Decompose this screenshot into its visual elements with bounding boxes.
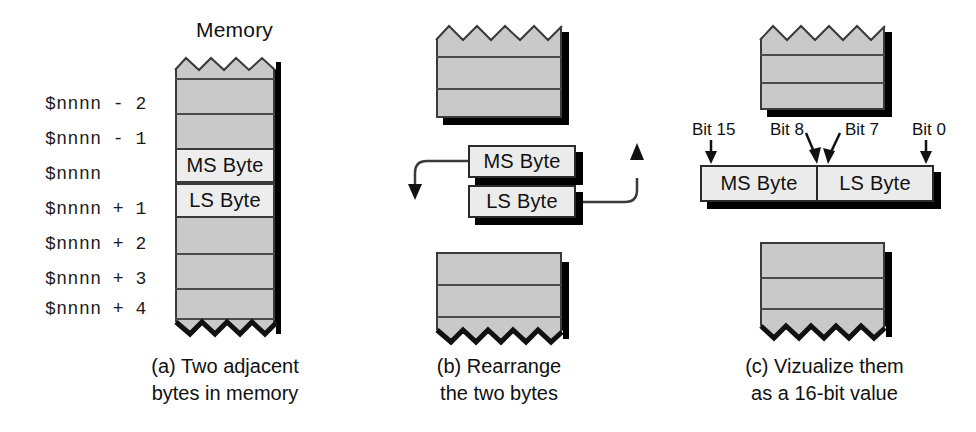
address-label-plus-2: $nnnn + 2 (45, 234, 147, 254)
panel-c-bottom-block-shadow (885, 252, 892, 337)
word-box-ms-half: MS Byte (702, 167, 816, 200)
bit-8-arrowhead (809, 147, 821, 164)
ls-byte-label: LS Byte (189, 189, 260, 212)
panel-c-caption-line2: as a 16-bit value (727, 380, 922, 407)
address-label-minus-1: $nnnn - 1 (45, 129, 147, 149)
memory-column-shadow-right (274, 62, 281, 334)
ms-byte-arrowhead (408, 184, 422, 200)
memory-row-divider (175, 253, 275, 255)
ls-byte-rearrange-arrow (583, 178, 637, 202)
panel-c-caption-line1: (c) Vizualize them (727, 353, 922, 380)
memory-row-divider (175, 318, 275, 320)
memory-row-divider (760, 277, 885, 279)
panel-c-memory-block-top (760, 22, 885, 110)
panel-b-ls-byte-box: LS Byte (468, 185, 576, 218)
ls-byte-arrowhead (630, 143, 644, 160)
memory-column-title: Memory (196, 18, 273, 42)
panel-b-bottom-block-shadow (562, 262, 569, 339)
panel-b-caption-line1: (b) Rearrange (404, 353, 594, 380)
memory-row-divider (436, 316, 562, 318)
figure-canvas: Memory MS Byte LS Byte $nnnn - 2 $nnnn -… (0, 0, 976, 432)
ms-byte-label: MS Byte (721, 172, 798, 195)
address-label-minus-2: $nnnn - 2 (45, 94, 147, 114)
memory-cell-ls-byte: LS Byte (175, 183, 275, 218)
bit-8-arrow-line (806, 133, 814, 152)
memory-row-divider (760, 54, 885, 56)
panel-c-memory-block-bottom (760, 242, 885, 334)
address-label-plus-4: $nnnn + 4 (45, 299, 147, 319)
address-label-plus-1: $nnnn + 1 (45, 199, 147, 219)
panel-c-word-box: MS Byte LS Byte (700, 165, 934, 202)
word-box-shadow-bottom (707, 202, 941, 209)
panel-b-top-block-shadow (562, 32, 569, 125)
panel-b-top-block-shadow-bottom (443, 118, 569, 125)
ms-byte-box-shadow-bottom (475, 178, 583, 185)
ls-byte-label: LS Byte (839, 172, 910, 195)
address-label-base: $nnnn (45, 164, 102, 184)
panel-a-caption-line1: (a) Two adjacent (130, 353, 320, 380)
memory-cell-ms-byte: MS Byte (175, 148, 275, 183)
ls-byte-box-shadow-bottom (475, 218, 583, 225)
ms-byte-label: MS Byte (187, 154, 264, 177)
ms-byte-rearrange-arrow (415, 161, 468, 186)
memory-row-divider (175, 78, 275, 80)
memory-row-divider (760, 82, 885, 84)
panel-b-ms-byte-box: MS Byte (468, 145, 576, 178)
bit-7-arrowhead (823, 148, 835, 164)
bit-label-0: Bit 0 (912, 120, 946, 140)
memory-row-divider (175, 288, 275, 290)
memory-row-divider (175, 113, 275, 115)
panel-a-caption-line2: bytes in memory (130, 380, 320, 407)
panel-c-top-block-shadow-bottom (767, 110, 892, 117)
panel-c-top-block-shadow (885, 32, 892, 117)
memory-row-divider (436, 88, 562, 90)
bit-15-arrowhead (705, 151, 717, 164)
bit-7-arrow-line (831, 133, 840, 152)
bit-label-8: Bit 8 (770, 120, 804, 140)
memory-row-divider (436, 56, 562, 58)
memory-row-divider (760, 308, 885, 310)
bit-label-15: Bit 15 (692, 120, 735, 140)
ms-byte-label: MS Byte (484, 150, 561, 173)
word-box-ls-half: LS Byte (818, 167, 932, 200)
memory-row-divider (436, 284, 562, 286)
panel-b-caption-line2: the two bytes (404, 380, 594, 407)
ls-byte-label: LS Byte (486, 190, 557, 213)
address-label-plus-3: $nnnn + 3 (45, 269, 147, 289)
panel-b-memory-block-bottom (436, 252, 562, 338)
bit-0-arrowhead (920, 151, 932, 164)
panel-b-memory-block-top (436, 22, 562, 118)
bit-label-7: Bit 7 (845, 120, 879, 140)
